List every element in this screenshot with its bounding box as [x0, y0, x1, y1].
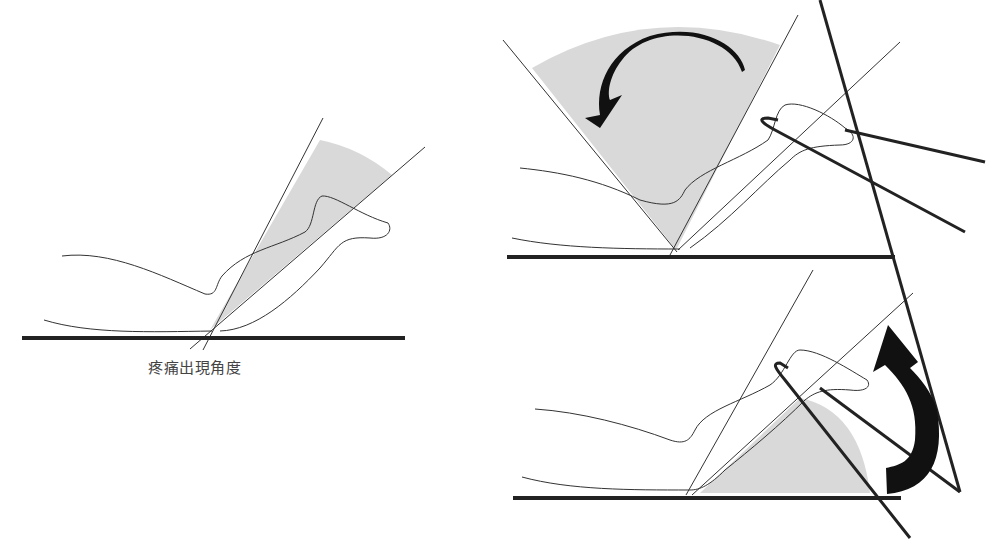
instrument-handle: [820, 0, 960, 492]
leg-outline-lower: [44, 320, 212, 332]
shaded-angle-wedge: [210, 140, 392, 330]
shaded-angle-wedge: [700, 398, 870, 493]
panel-dorsiflexion: [503, 15, 985, 257]
diagram-canvas: [0, 0, 996, 551]
leg-outline-lower: [522, 477, 690, 490]
leg-outline-lower: [512, 238, 680, 249]
pain-angle-label: 疼痛出現角度: [148, 356, 241, 377]
panel-pain-angle: [22, 118, 425, 350]
shaded-angle-wedge: [532, 27, 780, 250]
curved-arrow-icon: [873, 325, 939, 494]
